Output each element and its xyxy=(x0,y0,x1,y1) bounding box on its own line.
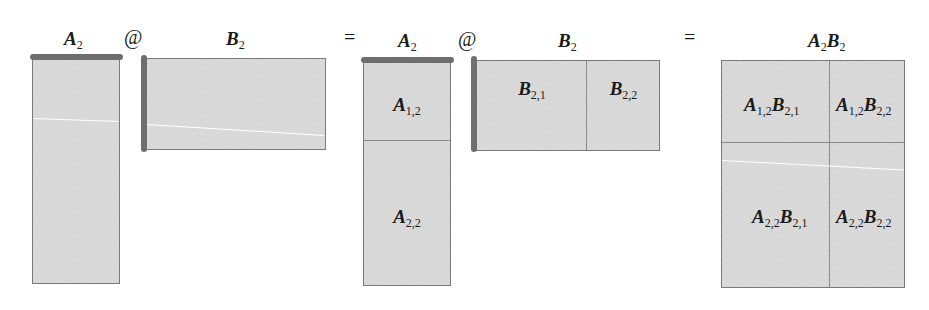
result-a2b2-label: A2B2 xyxy=(808,30,845,55)
block-b21-label: B2,1 xyxy=(478,78,586,103)
matrix-b2-label: B2 xyxy=(226,28,245,53)
matrix-a2-label: A2 xyxy=(64,28,83,53)
b2-partition-highlight-bar xyxy=(471,56,477,152)
block-a12-label: A1,2 xyxy=(363,94,451,119)
partitioned-b2-block xyxy=(474,60,660,151)
result-cell-a12b22: A1,2B2,2 xyxy=(836,94,906,119)
matmul-operator-2: @ xyxy=(458,28,476,51)
b2-column-highlight-bar xyxy=(141,55,147,152)
result-row-divider xyxy=(722,142,904,143)
result-cell-a12b21: A1,2B2,1 xyxy=(744,94,830,119)
a2-row-divider xyxy=(364,140,450,141)
result-cell-a22b22: A2,2B2,2 xyxy=(836,206,906,231)
equals-operator-1: = xyxy=(344,26,355,49)
partitioned-a2-label: A2 xyxy=(398,30,417,55)
equals-operator-2: = xyxy=(684,26,695,49)
block-a22-label: A2,2 xyxy=(363,206,451,231)
partitioned-b2-label: B2 xyxy=(558,30,577,55)
matrix-b2-block xyxy=(145,58,326,150)
result-cell-a22b21: A2,2B2,1 xyxy=(752,206,830,231)
a2-row-highlight-bar xyxy=(30,54,123,60)
matrix-a2-block xyxy=(32,58,120,284)
b2-column-divider xyxy=(586,61,587,150)
block-b22-label: B2,2 xyxy=(587,78,660,103)
a2-partition-highlight-bar xyxy=(361,57,454,63)
matmul-operator: @ xyxy=(124,26,142,49)
